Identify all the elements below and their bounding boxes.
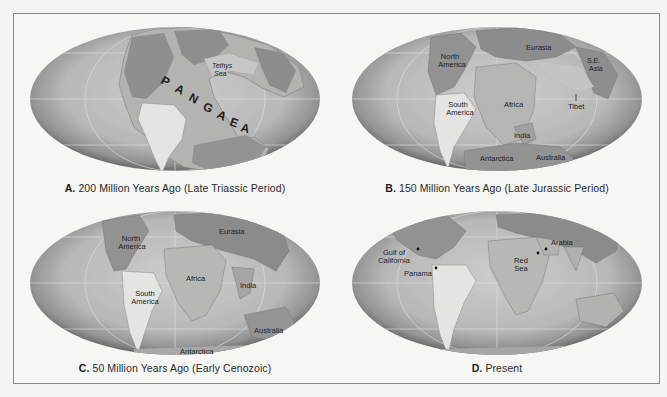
label-africa: Africa	[186, 274, 206, 283]
caption-text: 150 Million Years Ago (Late Jurassic Per…	[399, 182, 609, 194]
label-australia: Australia	[254, 326, 284, 335]
label-india: India	[514, 131, 531, 140]
label-america: America	[118, 242, 146, 251]
map-panel-c: North America Eurasia Africa India South…	[14, 211, 336, 393]
label-antarctica: Antarctica	[480, 154, 514, 163]
label-tibet: Tibet	[568, 102, 585, 111]
caption-b: B. 150 Million Years Ago (Late Jurassic …	[336, 182, 658, 194]
label-sea: Sea	[514, 264, 528, 273]
label-california: California	[378, 256, 411, 265]
label-america: America	[438, 60, 466, 69]
caption-letter: D.	[472, 362, 483, 374]
panama-marker	[435, 267, 438, 270]
red-sea-marker	[537, 252, 540, 255]
label-america-s: America	[446, 108, 474, 117]
caption-c: C. 50 Million Years Ago (Early Cenozoic)	[14, 362, 336, 374]
label-arabia: Arabia	[551, 238, 574, 247]
caption-letter: A.	[65, 182, 76, 194]
gulf-marker	[417, 248, 420, 251]
label-asia: Asia	[589, 65, 603, 72]
map-panel-b: North America Eurasia S.E. Asia South Am…	[336, 27, 658, 209]
label-tethys: Tethys	[212, 62, 233, 70]
label-antarctica: Antarctica	[180, 347, 214, 356]
arabia-marker	[545, 248, 548, 251]
caption-letter: B.	[385, 182, 396, 194]
map-panel-a: P A N G A E A Tethys Sea A. 200 Million …	[14, 27, 336, 209]
label-america-s: America	[131, 297, 159, 306]
caption-d: D. Present	[336, 362, 658, 374]
label-australia: Australia	[536, 153, 566, 162]
caption-text: 50 Million Years Ago (Early Cenozoic)	[92, 362, 271, 374]
label-sea: Sea	[214, 70, 227, 77]
label-africa: Africa	[504, 100, 524, 109]
label-panama: Panama	[404, 269, 433, 278]
label-se: S.E.	[587, 57, 600, 64]
label-eurasia: Eurasia	[526, 43, 552, 52]
caption-text: 200 Million Years Ago (Late Triassic Per…	[78, 182, 285, 194]
map-panel-d: Gulf of California Panama Red Sea Arabia…	[336, 211, 658, 393]
caption-a: A. 200 Million Years Ago (Late Triassic …	[14, 182, 336, 194]
label-eurasia: Eurasia	[219, 227, 245, 236]
caption-letter: C.	[79, 362, 90, 374]
label-india: India	[240, 281, 257, 290]
caption-text: Present	[485, 362, 522, 374]
graticule	[336, 211, 658, 355]
